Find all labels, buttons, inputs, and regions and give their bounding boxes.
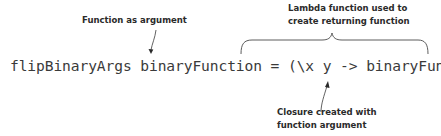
arrow-down-icon — [149, 30, 157, 54]
curly-brace-icon — [241, 33, 428, 54]
arrow-up-icon — [321, 81, 330, 112]
diagram-annotations-layer — [0, 0, 441, 136]
